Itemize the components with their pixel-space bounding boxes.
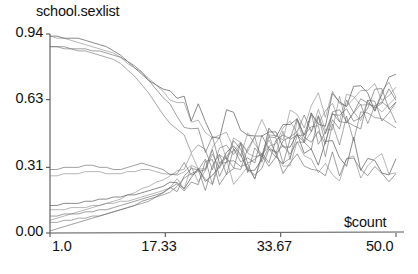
y-tick-label-0: 0.00 [0,223,43,239]
chart-root: school.sexlist 0.00 0.31 0.63 0.94 1.0 1… [0,0,418,274]
line-chart-canvas [0,0,418,274]
x-tick-label-1: 17.33 [141,238,176,254]
y-tick-label-2: 0.63 [0,90,43,106]
axis-layer [46,34,404,237]
series-line [50,89,396,217]
x-tick-label-0: 1.0 [52,238,72,254]
y-tick-label-1: 0.31 [0,157,43,173]
x-axis-title: $count [344,214,386,230]
y-tick-label-3: 0.94 [0,24,43,40]
x-axis-line [50,232,404,233]
series-line [50,94,396,209]
x-tick-label-2: 33.67 [257,238,292,254]
series-layer [50,36,396,231]
x-tick-label-3: 50.0 [366,238,393,254]
series-line [50,74,396,205]
